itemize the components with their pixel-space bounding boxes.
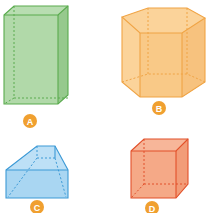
shape-c-trapezoidal-solid [6,146,68,198]
label-d-badge: D [145,201,159,213]
solids-figure: A B C [0,0,217,213]
shape-b-hexagonal-prism [122,8,205,97]
shape-d-cube [131,139,188,198]
label-d: D [149,204,156,214]
label-a-badge: A [23,114,37,128]
label-a: A [27,117,34,127]
label-c-badge: C [30,200,44,213]
shape-a-cuboid [4,6,68,104]
label-b: B [156,104,163,114]
label-c: C [34,203,41,213]
label-b-badge: B [152,101,166,115]
